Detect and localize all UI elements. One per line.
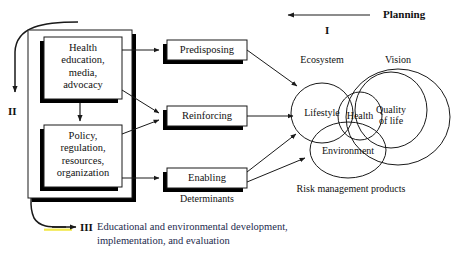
determinants-caption: Determinants: [167, 193, 247, 204]
environment-label: Environment: [313, 145, 383, 156]
vision-caption: Vision: [373, 54, 423, 65]
reinforcing-label: Reinforcing: [167, 110, 247, 122]
diagram-canvas: Planning I II III Educational and enviro…: [0, 0, 453, 255]
health-education-label: Health education, media, advocacy: [44, 42, 122, 92]
phase-three-description: Educational and environmental developmen…: [97, 220, 357, 247]
phase-one-roman: I: [325, 24, 329, 36]
planning-label: Planning: [383, 8, 425, 20]
policy-regulation-label: Policy, regulation, resources, organizat…: [44, 130, 122, 180]
risk-management-caption: Risk management products: [276, 183, 426, 194]
predisposing-label: Predisposing: [167, 44, 247, 56]
diagram-vector-layer: [0, 0, 453, 255]
ecosystem-caption: Ecosystem: [287, 54, 357, 65]
phase-three-highlight: [44, 229, 72, 231]
enabling-label: Enabling: [167, 172, 247, 184]
phase-three-roman: III: [80, 221, 93, 233]
quality-of-life-label: Quality of life: [366, 104, 416, 126]
connector-enabling-to-environment: [247, 158, 305, 182]
phase-two-roman: II: [8, 105, 17, 117]
connector-enabling-to-lifestyle: [247, 134, 296, 172]
